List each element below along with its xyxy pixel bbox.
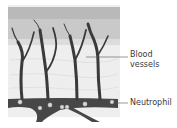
blood-vessels-label: Blood vessels bbox=[130, 50, 159, 70]
blood-vessels-label-line2: vessels bbox=[130, 60, 159, 70]
neutrophil-label: Neutrophil bbox=[130, 98, 172, 108]
epithelial-layer bbox=[8, 7, 120, 19]
capillary-network bbox=[8, 19, 120, 39]
blood-vessels-label-line1: Blood bbox=[130, 50, 159, 60]
